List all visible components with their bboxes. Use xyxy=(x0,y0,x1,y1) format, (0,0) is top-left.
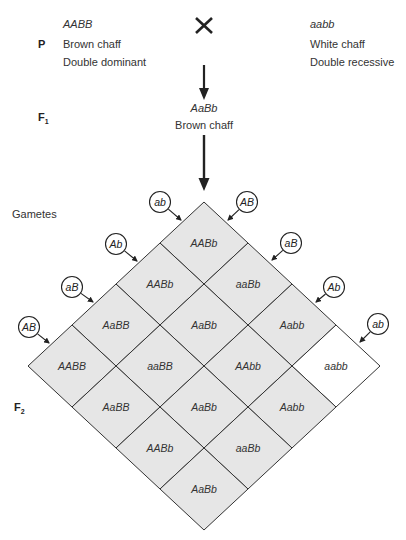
gamete-marker: AB xyxy=(228,192,258,221)
gamete-marker: ab xyxy=(360,314,389,343)
gamete-label: aB xyxy=(66,281,79,293)
gamete-label: aB xyxy=(285,237,298,249)
cell-genotype: AABB xyxy=(57,360,86,372)
cell-genotype: AaBB xyxy=(102,401,130,413)
gamete-marker: Ab xyxy=(106,234,138,262)
cell-genotype: AaBB xyxy=(102,319,130,331)
cell-genotype: aaBb xyxy=(236,442,261,454)
cell-genotype: Aabb xyxy=(279,401,305,413)
cell-genotype: AaBb xyxy=(190,401,217,413)
cell-genotype: AaBb xyxy=(190,483,217,495)
cell-genotype: aabb xyxy=(324,360,348,372)
cell-genotype: aaBb xyxy=(236,278,261,290)
gamete-arrow-icon xyxy=(168,209,181,220)
gamete-arrow-icon xyxy=(228,210,239,220)
cell-genotype: AaBb xyxy=(190,319,217,331)
gamete-label: ab xyxy=(154,196,166,208)
arrow-down-icon xyxy=(199,135,210,191)
gamete-label: AB xyxy=(21,321,36,333)
cell-genotype: AAbb xyxy=(234,360,261,372)
cell-genotype: AABb xyxy=(190,237,218,249)
gamete-arrow-icon xyxy=(125,251,137,261)
arrow-down-icon xyxy=(199,65,209,100)
cell-genotype: aaBB xyxy=(147,360,173,372)
gamete-arrow-icon xyxy=(316,294,326,302)
gamete-marker: aB xyxy=(62,277,94,303)
cell-genotype: AABb xyxy=(146,442,174,454)
gamete-label: Ab xyxy=(327,281,341,293)
gamete-marker: aB xyxy=(272,233,302,261)
cross-icon xyxy=(196,18,212,33)
gamete-marker: AB xyxy=(19,317,50,344)
gamete-label: AB xyxy=(239,196,254,208)
cell-genotype: AABb xyxy=(146,278,174,290)
cell-genotype: Aabb xyxy=(279,319,305,331)
gamete-marker: ab xyxy=(150,192,182,221)
gamete-arrow-icon xyxy=(81,293,93,302)
gamete-arrow-icon xyxy=(272,250,283,260)
gamete-label: Ab xyxy=(109,238,123,250)
gamete-arrow-icon xyxy=(38,334,49,343)
gamete-marker: Ab xyxy=(316,277,345,303)
punnett-diamond-diagram: AABbAABbaaBbAaBBAaBbAabbAABBaaBBAAbbaabb… xyxy=(0,0,406,540)
punnett-grid: AABbAABbaaBbAaBBAaBbAabbAABBaaBBAAbbaabb… xyxy=(28,202,380,530)
gamete-label: ab xyxy=(372,318,384,330)
gamete-arrow-icon xyxy=(360,332,370,342)
